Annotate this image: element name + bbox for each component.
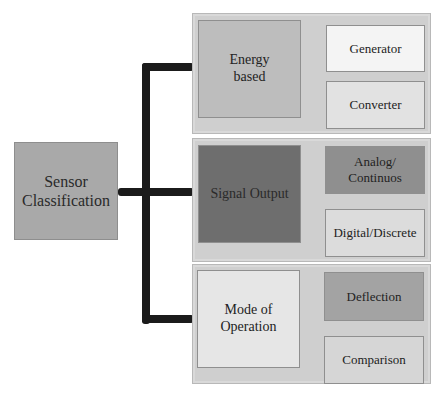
leaf-comparison: Comparison: [324, 336, 424, 384]
connector-branch-energy: [142, 63, 194, 71]
leaf-generator: Generator: [326, 25, 425, 72]
leaf-deflection: Deflection: [324, 272, 424, 321]
category-label-line2: based: [229, 69, 269, 86]
leaf-label: Digital/Discrete: [333, 225, 416, 241]
category-mode-of-operation: Mode of Operation: [197, 270, 300, 368]
category-signal-output: Signal Output: [198, 145, 301, 243]
category-energy-based: Energy based: [198, 20, 301, 118]
leaf-analog-continuos: Analog/ Continuos: [325, 146, 425, 194]
category-label-line1: Energy: [229, 52, 269, 69]
leaf-digital-discrete: Digital/Discrete: [325, 209, 425, 257]
category-label-line1: Signal Output: [210, 186, 288, 203]
leaf-label: Generator: [350, 41, 402, 57]
root-label-line1: Sensor: [22, 172, 110, 191]
sensor-classification-node: Sensor Classification: [14, 142, 118, 240]
leaf-label: Converter: [350, 97, 402, 113]
connector-branch-mode: [142, 315, 194, 323]
leaf-label-line2: Continuos: [348, 170, 401, 186]
connector-branch-signal: [142, 188, 194, 196]
category-label-line2: Operation: [221, 319, 277, 336]
category-label-line1: Mode of: [221, 302, 277, 319]
leaf-converter: Converter: [326, 81, 425, 129]
leaf-label: Comparison: [342, 352, 406, 368]
leaf-label-line1: Analog/: [348, 154, 401, 170]
leaf-label: Deflection: [347, 289, 402, 305]
root-label-line2: Classification: [22, 191, 110, 210]
